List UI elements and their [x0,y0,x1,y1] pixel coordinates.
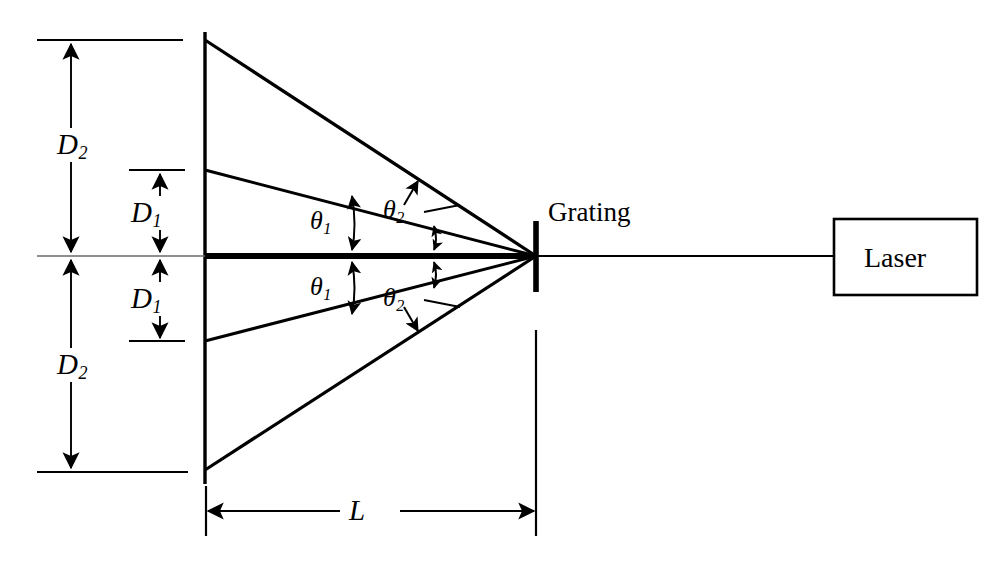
label-laser: Laser [864,242,926,274]
label-theta1-bottom: θ1 [310,272,331,304]
beam-order1-up [205,170,536,256]
theta2-bottom-leader-arrow [404,307,418,331]
label-theta2-bottom: θ2 [383,283,404,315]
label-theta1-top: θ1 [310,206,331,238]
label-grating: Grating [548,197,630,228]
theta2-top-arc [434,226,436,250]
theta1-bottom-arc [352,262,355,314]
theta2-bottom-leader-right [424,300,460,307]
theta2-bottom-arc [434,262,436,288]
theta2-top-leader-arrow [404,181,418,205]
label-d1-bottom: D1 [131,282,161,318]
beam-order1-down [205,256,536,341]
theta2-top-leader-right [424,205,460,212]
beam-order2-down [205,256,536,470]
label-d2-top: D2 [57,128,87,164]
label-d2-bottom: D2 [57,348,87,384]
theta1-top-arc [352,196,355,250]
beam-order2-up [205,40,536,256]
label-theta2-top: θ2 [383,195,404,227]
label-distance-l: L [349,494,365,527]
diffraction-grating-diagram: D2 D2 D1 D1 θ1 θ1 θ2 θ2 L Grating Laser [0,0,1008,561]
label-d1-top: D1 [131,196,161,232]
diagram-canvas [0,0,1008,561]
